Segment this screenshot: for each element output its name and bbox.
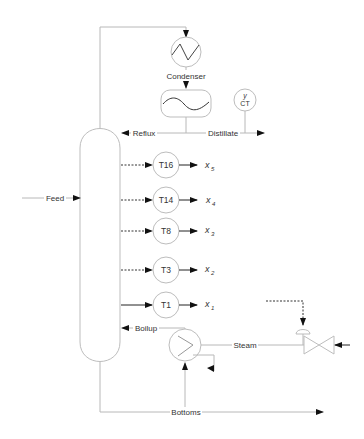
- condenser-label: Condenser: [166, 72, 205, 81]
- x4-label: x: [205, 195, 211, 205]
- temp-sensor-t3: T3 x 2: [121, 257, 215, 283]
- svg-text:1: 1: [211, 305, 214, 311]
- temp-sensor-t14: T14 x 4: [121, 187, 216, 213]
- svg-text:3: 3: [211, 231, 215, 237]
- ct-label: CT: [240, 100, 250, 107]
- reflux-drum: [161, 90, 211, 133]
- ct-y-label: y: [242, 92, 247, 100]
- steam-label: Steam: [233, 341, 256, 350]
- feed-stream: Feed: [22, 193, 80, 203]
- svg-text:2: 2: [210, 270, 215, 276]
- distillation-column: [80, 129, 120, 362]
- temp-sensor-t1: T1 x 1: [121, 292, 214, 318]
- t8-label: T8: [161, 226, 171, 236]
- x5-label: x: [204, 160, 210, 170]
- reboiler: Steam: [169, 329, 304, 372]
- feed-label: Feed: [46, 194, 64, 203]
- condenser: Condenser: [166, 37, 205, 88]
- x1-label: x: [204, 299, 210, 309]
- temp-sensor-t8: T8 x 3: [121, 218, 215, 244]
- t1-label: T1: [161, 300, 171, 310]
- bottoms-label: Bottoms: [171, 408, 200, 417]
- composition-transmitter: y CT: [234, 89, 256, 133]
- x3-label: x: [204, 225, 210, 235]
- t3-label: T3: [161, 265, 171, 275]
- distillation-diagram: Condenser y CT Reflux Distillate Feed: [0, 0, 364, 439]
- reflux-label: Reflux: [133, 129, 156, 138]
- reflux-distillate-line: Reflux Distillate: [122, 128, 264, 138]
- distillate-label: Distillate: [208, 129, 239, 138]
- svg-text:4: 4: [212, 201, 216, 207]
- x2-label: x: [204, 264, 210, 274]
- boilup-label: Boilup: [135, 324, 158, 333]
- temp-sensor-t16: T16 x 5: [121, 152, 215, 178]
- t14-label: T14: [159, 195, 174, 205]
- svg-text:5: 5: [211, 166, 215, 172]
- t16-label: T16: [159, 160, 174, 170]
- steam-control-valve: [266, 301, 350, 354]
